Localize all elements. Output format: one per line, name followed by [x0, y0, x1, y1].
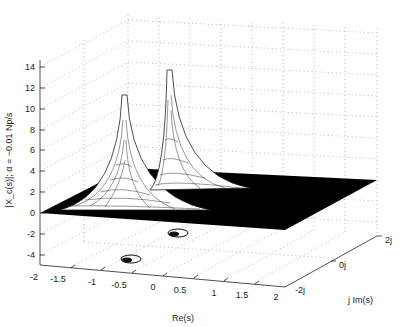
z-tick: 2	[30, 187, 35, 197]
x-tick: -2	[30, 272, 38, 282]
z-tick: -4	[27, 250, 35, 260]
x-axis: -2 -1.5 -1 -0.5 0 0.5 1 1.5 2 Re(s)	[30, 265, 285, 323]
grid-lines	[40, 15, 377, 282]
z-tick: 0	[30, 208, 35, 218]
y-tick: 2j	[385, 235, 392, 245]
z-tick: 8	[30, 125, 35, 135]
z-axis-label: |X_c(s)|; α = −0.01 Np/s	[4, 112, 14, 207]
contour-projections	[121, 229, 188, 263]
x-tick: 2	[273, 292, 278, 302]
x-axis-label: Re(s)	[172, 313, 194, 323]
x-tick: 0	[150, 282, 155, 292]
z-axis: 14 12 10 8 6 4 2 0 -2 -4 |X_c(s)|; α = −…	[4, 60, 45, 265]
y-tick: 0j	[339, 260, 346, 270]
x-tick: -1	[88, 277, 96, 287]
z-tick: 10	[25, 104, 35, 114]
y-tick: -2j	[295, 285, 305, 295]
z-tick: 14	[25, 62, 35, 72]
z-tick: 6	[30, 145, 35, 155]
x-tick: 1	[211, 288, 216, 298]
z-tick: 12	[25, 83, 35, 93]
x-tick: 0.5	[174, 285, 187, 295]
z-tick: -2	[27, 229, 35, 239]
peak-2	[150, 70, 250, 190]
y-axis: -2j 0j 2j j Im(s)	[285, 235, 392, 305]
x-tick: -1.5	[50, 274, 66, 284]
x-tick: 1.5	[236, 290, 249, 300]
surface-plot: 14 12 10 8 6 4 2 0 -2 -4 |X_c(s)|; α = −…	[0, 0, 405, 327]
y-axis-label: j Im(s)	[347, 295, 373, 305]
x-tick: -0.5	[111, 280, 127, 290]
z-tick: 4	[30, 166, 35, 176]
